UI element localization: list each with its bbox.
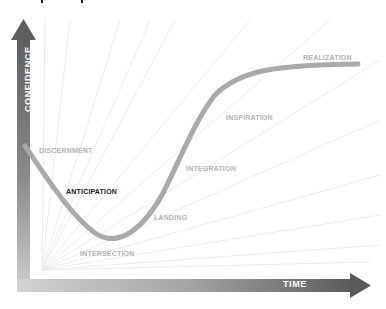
stage-label-discernment: DISCERNMENT <box>39 146 93 155</box>
x-axis-label: TIME <box>283 279 307 289</box>
confidence-time-diagram: CONFIDENCE TIME DISCERNMENT ANTICIPATION… <box>0 0 386 309</box>
x-axis-arrow <box>17 273 371 298</box>
cropped-text-fragment <box>81 0 83 3</box>
stage-label-intersection: INTERSECTION <box>80 249 135 258</box>
stage-label-integration: INTEGRATION <box>186 164 236 173</box>
y-axis-label: CONFIDENCE <box>23 46 33 112</box>
stage-label-realization: REALIZATION <box>303 53 352 62</box>
stage-label-landing: LANDING <box>154 213 187 222</box>
stage-label-inspiration: INSPIRATION <box>226 113 273 122</box>
stage-label-anticipation: ANTICIPATION <box>66 187 117 196</box>
cropped-text-fragment <box>41 0 43 3</box>
